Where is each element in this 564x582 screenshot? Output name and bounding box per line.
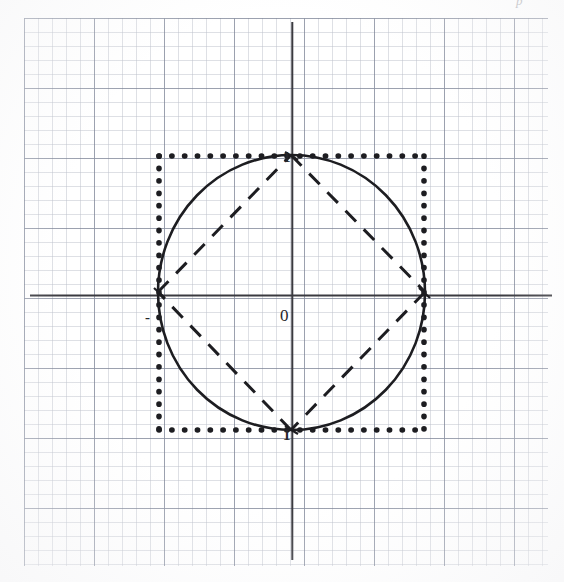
figure-root: 0 1 1 - p <box>0 0 564 582</box>
diamond-edge-lower-right <box>291 292 425 430</box>
plot-canvas <box>0 0 564 582</box>
y-axis-one-label: 1 <box>283 150 291 165</box>
axes-group <box>30 22 552 560</box>
diamond-edge-lower-left <box>158 292 291 430</box>
x-axis-minus-label: - <box>145 310 149 325</box>
diamond-edge-upper-left <box>158 155 291 292</box>
y-axis-negative-one-label: 1 <box>283 428 291 443</box>
diamond-edge-upper-right <box>291 155 425 292</box>
page-corner-mark: p <box>516 0 523 7</box>
origin-label: 0 <box>280 307 289 324</box>
